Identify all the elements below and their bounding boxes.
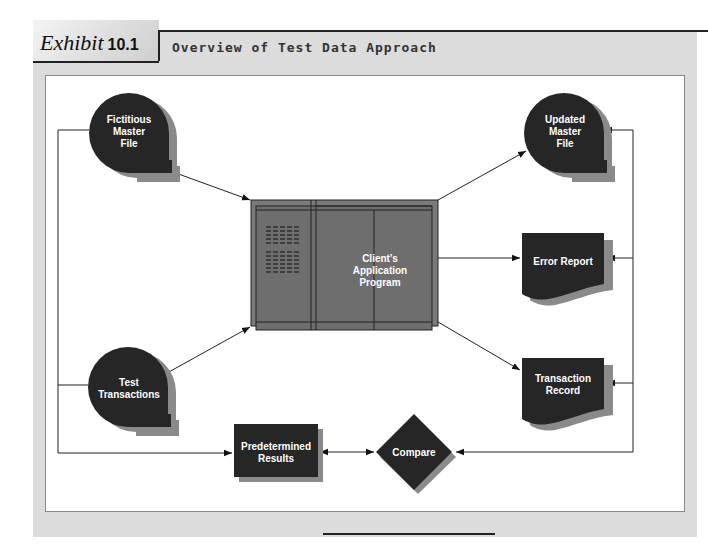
label-line: Test <box>88 377 170 389</box>
label-line: Master <box>530 126 600 138</box>
test-transactions-label: Test Transactions <box>88 377 170 401</box>
error-report-label: Error Report <box>522 256 604 268</box>
label-line: File <box>530 138 600 150</box>
client-program-label: Client's Application Program <box>345 253 415 289</box>
updated-master-file-label: Updated Master File <box>530 114 600 150</box>
label-line: File <box>94 138 164 150</box>
label-line: Compare <box>376 447 452 459</box>
label-line: Application <box>345 265 415 277</box>
label-line: Fictitious <box>94 114 164 126</box>
label-line: Transaction <box>522 373 604 385</box>
label-line: Results <box>234 453 318 465</box>
fictitious-master-file-label: Fictitious Master File <box>94 114 164 150</box>
label-line: Transactions <box>88 389 170 401</box>
error-report-node <box>522 233 613 306</box>
compare-label: Compare <box>376 447 452 459</box>
label-line: Record <box>522 385 604 397</box>
transaction-record-label: Transaction Record <box>522 373 604 397</box>
label-line: Updated <box>530 114 600 126</box>
predetermined-results-label: Predetermined Results <box>234 441 318 465</box>
label-line: Error Report <box>522 256 604 268</box>
label-line: Master <box>94 126 164 138</box>
label-line: Client's <box>345 253 415 265</box>
label-line: Predetermined <box>234 441 318 453</box>
label-line: Program <box>345 277 415 289</box>
